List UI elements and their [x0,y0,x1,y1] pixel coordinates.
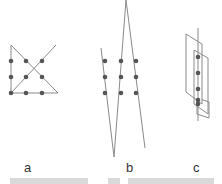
panel-b-dots [103,59,139,96]
dot [119,91,124,96]
dot [24,59,29,64]
dot [9,91,14,96]
dot [40,75,45,80]
dot [196,102,201,107]
panel-c-label: c [193,160,200,175]
dot [196,87,201,92]
dot [9,59,14,64]
dot [24,91,29,96]
panel-b-figure [101,0,145,157]
dot [119,59,124,64]
nine-dots-diagram [0,0,222,184]
cropped-caption-a [10,178,88,184]
dot [196,98,201,103]
dot [196,71,201,76]
dot [103,75,108,80]
dot [40,91,45,96]
dot [134,75,139,80]
dot [196,55,201,60]
cropped-caption-b1 [108,178,120,184]
dot [40,59,45,64]
dot [9,75,14,80]
dot [103,59,108,64]
panel-b-zigzag-path [101,0,145,157]
panel-b-label: b [126,160,133,175]
panel-a-label: a [24,160,31,175]
cropped-caption-b2 [128,178,214,184]
dot [103,91,108,96]
dot [134,59,139,64]
dot [24,75,29,80]
panel-a-figure [11,45,58,93]
dot [134,91,139,96]
dot [119,75,124,80]
